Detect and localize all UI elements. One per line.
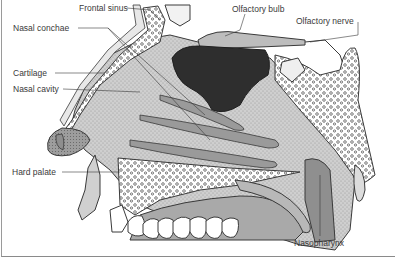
label-olfactory-nerve: Olfactory nerve <box>296 16 354 26</box>
label-olfactory-bulb: Olfactory bulb <box>232 4 284 14</box>
label-nasopharynx: Nasopharynx <box>294 238 344 248</box>
label-hard-palate: Hard palate <box>12 167 56 177</box>
label-nasal-conchae: Nasal conchae <box>13 23 69 33</box>
olfactory-nerve-line <box>305 40 345 70</box>
upper-lip <box>78 155 100 220</box>
label-frontal-sinus: Frontal sinus <box>79 3 128 13</box>
nose-tip <box>48 128 90 156</box>
frontal-sinus-region <box>165 5 190 26</box>
nasal-anatomy-illustration <box>0 0 396 263</box>
olfactory-bulb-shape <box>198 32 305 48</box>
label-cartilage: Cartilage <box>13 68 47 78</box>
label-nasal-cavity: Nasal cavity <box>13 84 59 94</box>
